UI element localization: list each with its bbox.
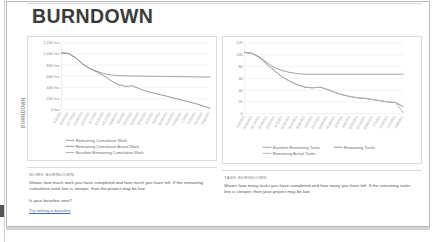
work-burndown-panel: 0 hrs200 hrs400 hrs600 hrs800 hrs1,000 h… <box>27 36 217 221</box>
svg-text:600 hrs: 600 hrs <box>46 74 59 79</box>
set-baseline-link[interactable]: Try setting a baseline <box>29 208 71 213</box>
right-divider-top <box>222 170 422 171</box>
svg-text:Remaining Actual Tasks: Remaining Actual Tasks <box>273 151 316 156</box>
svg-text:200 hrs: 200 hrs <box>46 96 59 101</box>
svg-text:Baseline Remaining Tasks: Baseline Remaining Tasks <box>273 145 320 150</box>
svg-text:80: 80 <box>238 64 243 69</box>
left-rail-divider <box>4 0 5 242</box>
work-burndown-heading: WORK BURNDOWN <box>29 172 74 177</box>
work-chart-y-tick-labels: 0 hrs200 hrs400 hrs600 hrs800 hrs1,000 h… <box>43 40 59 112</box>
task-chart-y-tick-labels: 020406080100120 <box>236 40 243 116</box>
svg-text:100: 100 <box>236 52 243 57</box>
svg-text:Remaining Tasks: Remaining Tasks <box>344 145 375 150</box>
svg-text:Remaining Cumulative Actual Wo: Remaining Cumulative Actual Work <box>76 144 140 149</box>
report-frame-shadow <box>6 227 430 230</box>
task-chart-legend: Baseline Remaining TasksRemaining TasksR… <box>263 145 375 156</box>
task-chart-gridlines <box>245 43 403 114</box>
work-burndown-description: Shows how much work you have completed a… <box>29 180 213 192</box>
task-burndown-svg: 020406080100120 3/3/20123/10/20123/17/20… <box>223 37 421 163</box>
work-chart-x-tick-labels: 3/3/20123/10/20123/17/20123/24/20123/31/… <box>53 111 211 126</box>
svg-text:400 hrs: 400 hrs <box>46 85 59 90</box>
svg-text:Baseline Remaining Cumulative: Baseline Remaining Cumulative Work <box>76 150 145 155</box>
title-rule <box>27 3 422 4</box>
svg-text:1,000 hrs: 1,000 hrs <box>43 51 59 56</box>
svg-text:Remaining Cumulative Work: Remaining Cumulative Work <box>76 138 128 143</box>
task-burndown-heading: TASK BURNDOWN <box>224 175 267 180</box>
left-divider-top <box>27 167 217 168</box>
task-burndown-description: Shows how many tasks you have completed … <box>224 183 414 195</box>
burndown-report-page: BURNDOWN BURNDOWN 0 hrs200 hrs400 hrs600… <box>0 0 436 242</box>
task-burndown-chart[interactable]: 020406080100120 3/3/20123/10/20123/17/20… <box>222 36 422 164</box>
svg-text:60: 60 <box>238 76 243 81</box>
task-burndown-panel: 020406080100120 3/3/20123/10/20123/17/20… <box>222 36 422 221</box>
work-chart-legend: Remaining Cumulative WorkRemaining Cumul… <box>66 138 145 155</box>
task-chart-series-lines <box>245 52 403 112</box>
work-burndown-question: Is your baseline zero? <box>29 198 72 203</box>
work-burndown-svg: 0 hrs200 hrs400 hrs600 hrs800 hrs1,000 h… <box>28 37 216 160</box>
svg-text:20: 20 <box>238 99 243 104</box>
rail-marker <box>0 205 4 217</box>
svg-text:120: 120 <box>236 40 243 45</box>
work-chart-series-lines <box>62 53 210 108</box>
task-chart-x-tick-labels: 3/3/20123/10/20123/17/20123/24/20123/31/… <box>236 115 404 130</box>
page-title: BURNDOWN <box>32 5 153 28</box>
svg-text:800 hrs: 800 hrs <box>46 63 59 68</box>
work-burndown-chart[interactable]: 0 hrs200 hrs400 hrs600 hrs800 hrs1,000 h… <box>27 36 217 161</box>
vertical-section-label: BURNDOWN <box>21 73 26 153</box>
svg-text:1,200 hrs: 1,200 hrs <box>43 40 59 45</box>
svg-text:40: 40 <box>238 88 243 93</box>
